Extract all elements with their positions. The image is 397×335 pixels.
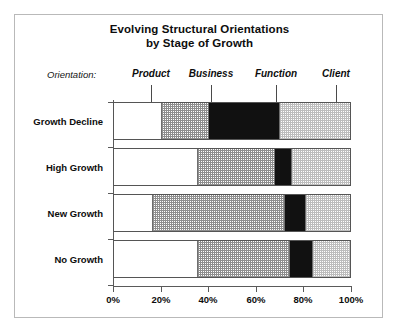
bar-segment-product[interactable] — [114, 149, 197, 185]
x-label-0: 0% — [106, 294, 120, 305]
x-tick-80 — [303, 287, 304, 292]
legend-item-product[interactable]: Product — [132, 68, 170, 79]
x-label-80: 80% — [293, 294, 312, 305]
legend-item-client[interactable]: Client — [322, 68, 350, 79]
category-label-growth-decline: Growth Decline — [33, 116, 103, 127]
x-tick-0 — [113, 287, 114, 292]
bar-row-high-growth[interactable] — [113, 148, 351, 186]
bar-segment-function[interactable] — [274, 149, 291, 185]
chart-title: Evolving Structural Orientations by Stag… — [15, 22, 384, 50]
x-label-20: 20% — [151, 294, 170, 305]
bar-segment-product[interactable] — [114, 195, 152, 231]
x-label-100: 100% — [339, 294, 363, 305]
bar-segment-product[interactable] — [114, 103, 161, 139]
legend-leader-business — [211, 85, 212, 102]
bar-segment-function[interactable] — [208, 103, 279, 139]
bar-row-growth-decline[interactable] — [113, 102, 351, 140]
bar-segment-business[interactable] — [161, 103, 208, 139]
legend-caption: Orientation: — [47, 69, 96, 80]
bar-segment-function[interactable] — [284, 195, 305, 231]
x-tick-40 — [208, 287, 209, 292]
x-label-40: 40% — [198, 294, 217, 305]
category-label-high-growth: High Growth — [46, 162, 103, 173]
x-tick-20 — [161, 287, 162, 292]
bar-segment-product[interactable] — [114, 241, 197, 277]
x-tick-100 — [351, 287, 352, 292]
x-axis-line — [113, 286, 352, 287]
bar-segment-business[interactable] — [197, 241, 289, 277]
bar-row-new-growth[interactable] — [113, 194, 351, 232]
y-tick-4 — [108, 285, 113, 286]
plot-area — [113, 102, 351, 285]
bar-segment-client[interactable] — [312, 241, 350, 277]
legend-leader-function — [276, 85, 277, 102]
x-label-60: 60% — [246, 294, 265, 305]
category-label-no-growth: No Growth — [54, 254, 103, 265]
category-label-new-growth: New Growth — [48, 208, 103, 219]
bar-segment-business[interactable] — [152, 195, 284, 231]
chart-title-line-1: Evolving Structural Orientations — [110, 23, 290, 35]
bar-segment-business[interactable] — [197, 149, 275, 185]
bar-segment-client[interactable] — [291, 149, 350, 185]
chart-title-line-2: by Stage of Growth — [15, 36, 384, 50]
legend-item-business[interactable]: Business — [189, 68, 233, 79]
legend-leader-client — [336, 85, 337, 102]
legend-item-function[interactable]: Function — [255, 68, 297, 79]
x-tick-60 — [256, 287, 257, 292]
legend-leader-product — [151, 85, 152, 102]
chart-figure-frame: Evolving Structural Orientations by Stag… — [14, 14, 383, 318]
bar-segment-client[interactable] — [305, 195, 350, 231]
bar-row-no-growth[interactable] — [113, 240, 351, 278]
bar-segment-function[interactable] — [289, 241, 313, 277]
bar-segment-client[interactable] — [279, 103, 350, 139]
